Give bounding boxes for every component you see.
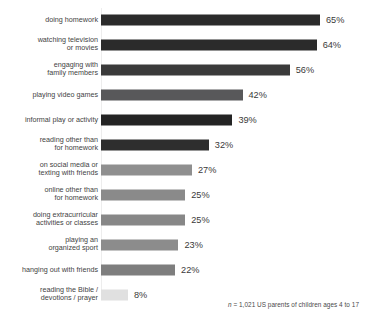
bar-category-label: doing homework (2, 15, 98, 24)
bar (101, 164, 192, 175)
bar-track (101, 214, 185, 225)
bar-category-label: playing video games (2, 90, 98, 99)
bar-track (101, 64, 290, 75)
bar (101, 89, 243, 100)
table-row: playing an organized sport23% (0, 232, 365, 257)
bar-track (101, 289, 128, 300)
bar-value-label: 64% (323, 40, 341, 50)
bar-category-label: informal play or activity (2, 115, 98, 124)
bar-category-label: doing extracurricular activities or clas… (2, 211, 98, 228)
table-row: watching television or movies64% (0, 32, 365, 57)
bar-value-label: 25% (191, 190, 209, 200)
bar (101, 139, 209, 150)
bar-track (101, 39, 317, 50)
bar-track (101, 189, 185, 200)
table-row: doing homework65% (0, 7, 365, 32)
horizontal-bar-chart: doing homework65%watching television or … (0, 0, 365, 321)
bar-value-label: 39% (238, 115, 256, 125)
bar (101, 114, 232, 125)
bar (101, 289, 128, 300)
sample-size-footnote: n = 1,021 US parents of children ages 4 … (228, 301, 359, 308)
table-row: online other than for homework25% (0, 182, 365, 207)
table-row: reading other than for homework32% (0, 132, 365, 157)
bar-track (101, 14, 320, 25)
table-row: doing extracurricular activities or clas… (0, 207, 365, 232)
bar (101, 239, 178, 250)
bar-track (101, 239, 178, 250)
bar (101, 264, 175, 275)
bar-category-label: engaging with family members (2, 61, 98, 78)
table-row: on social media or texting with friends2… (0, 157, 365, 182)
bar (101, 14, 320, 25)
bar-value-label: 56% (296, 65, 314, 75)
bar-category-label: on social media or texting with friends (2, 161, 98, 178)
table-row: engaging with family members56% (0, 57, 365, 82)
bar (101, 214, 185, 225)
bar-track (101, 164, 192, 175)
bar-value-label: 22% (181, 265, 199, 275)
bar-value-label: 23% (184, 240, 202, 250)
bar (101, 39, 317, 50)
bar (101, 189, 185, 200)
chart-title (0, 0, 365, 3)
bar-value-label: 42% (249, 90, 267, 100)
bar-category-label: playing an organized sport (2, 236, 98, 253)
bar-category-label: online other than for homework (2, 186, 98, 203)
bar-value-label: 65% (326, 15, 344, 25)
bar-track (101, 264, 175, 275)
bar-value-label: 8% (134, 290, 147, 300)
table-row: playing video games42% (0, 82, 365, 107)
bar-category-label: reading the Bible / devotions / prayer (2, 286, 98, 303)
bar-value-label: 32% (215, 140, 233, 150)
bar-category-label: hanging out with friends (2, 265, 98, 274)
bar-track (101, 89, 243, 100)
bar-category-label: watching television or movies (2, 36, 98, 53)
bar-track (101, 114, 232, 125)
bar-track (101, 139, 209, 150)
table-row: informal play or activity39% (0, 107, 365, 132)
footnote-text: = 1,021 US parents of children ages 4 to… (232, 301, 359, 308)
table-row: hanging out with friends22% (0, 257, 365, 282)
bar-category-label: reading other than for homework (2, 136, 98, 153)
bar-value-label: 25% (191, 215, 209, 225)
bar-value-label: 27% (198, 165, 216, 175)
bar (101, 64, 290, 75)
